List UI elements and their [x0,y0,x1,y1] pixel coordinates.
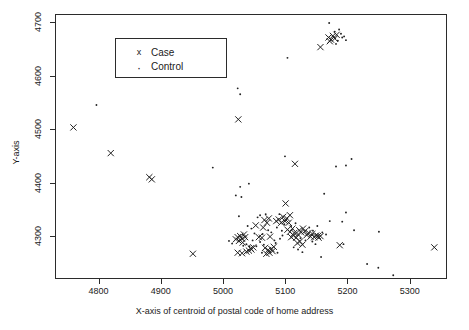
control-marker [290,225,292,227]
control-marker [284,155,286,157]
control-marker [254,232,256,234]
control-marker [341,37,343,39]
control-marker [323,193,325,195]
control-marker [337,40,339,42]
control-marker [281,230,283,232]
case-marker [317,44,323,50]
control-marker [345,212,347,214]
x-axis-tick [161,279,162,284]
control-marker [353,229,355,231]
control-marker [341,221,343,223]
control-marker [247,225,249,227]
control-marker [279,238,281,240]
y-axis-tick [50,129,55,130]
case-marker [260,224,266,230]
case-marker [431,244,437,250]
control-marker [295,222,297,224]
control-marker [320,256,322,258]
case-marker [337,242,343,248]
control-marker [255,245,257,247]
control-marker [316,225,318,227]
x-axis-title: X-axis of centroid of postal code of hom… [0,306,469,317]
case-marker [190,251,196,257]
control-marker [263,244,265,246]
y-axis-tick-label: 4500 [33,117,44,141]
control-marker [242,245,244,247]
legend-label-case: Case [151,47,174,58]
x-axis-tick-label: 5000 [213,286,233,297]
y-axis-tick-label: 4600 [33,64,44,88]
x-axis-tick [223,279,224,284]
control-marker [343,35,345,37]
case-marker [299,242,305,248]
control-marker [325,234,327,236]
y-axis-tick [50,183,55,184]
control-marker [239,186,241,188]
control-marker [259,241,261,243]
case-marker [297,238,303,244]
control-marker [261,252,263,254]
y-axis-tick [50,236,55,237]
case-marker [149,176,155,182]
control-marker [276,227,278,229]
case-marker [250,244,256,250]
x-axis-tick-label: 5100 [275,286,295,297]
control-marker [300,237,302,239]
control-marker [329,220,331,222]
control-marker [378,231,380,233]
case-marker [271,244,277,250]
control-marker [283,223,285,225]
control-marker [238,215,240,217]
legend-label-control: Control [151,61,183,72]
y-axis-tick [50,76,55,77]
control-marker [245,243,247,245]
x-axis-tick-label: 4800 [89,286,109,297]
case-marker [70,124,76,130]
legend-item-case: x Case [134,45,174,59]
x-axis-tick [410,279,411,284]
control-marker [335,43,337,45]
control-marker [248,183,250,185]
control-marker [239,93,241,95]
control-marker [282,235,284,237]
control-marker [277,252,279,254]
control-marker [308,227,310,229]
control-marker [301,251,303,253]
x-axis-tick [347,279,348,284]
x-axis-tick [99,279,100,284]
control-marker [228,240,230,242]
y-axis-tick [50,22,55,23]
control-marker [297,249,299,251]
control-marker [335,166,337,168]
x-axis-tick-label: 5200 [337,286,357,297]
dot-marker-icon: · [134,65,144,71]
case-marker [267,234,273,240]
y-axis-title: Y-axis [11,123,22,183]
x-axis-tick-label: 4900 [151,286,171,297]
control-marker [338,29,340,31]
control-marker [321,231,323,233]
control-marker [287,57,289,59]
control-marker [328,22,330,24]
plot-area [55,14,447,279]
control-marker [231,243,233,245]
control-marker [377,267,379,269]
control-marker [267,229,269,231]
control-marker [305,239,307,241]
control-marker [252,239,254,241]
case-marker [108,150,114,156]
control-marker [315,243,317,245]
scatter-plot-figure: 4800490050005100520053004300440045004600… [0,0,469,330]
control-marker [351,158,353,160]
control-marker [278,213,280,215]
control-marker [250,228,252,230]
legend-item-control: · Control [134,59,183,73]
control-marker [259,214,261,216]
control-marker [95,104,97,106]
control-marker [237,87,239,89]
y-axis-tick-label: 4300 [33,224,44,248]
control-marker [340,33,342,35]
control-marker [249,245,251,247]
y-axis-tick-label: 4400 [33,171,44,195]
control-marker [293,246,295,248]
